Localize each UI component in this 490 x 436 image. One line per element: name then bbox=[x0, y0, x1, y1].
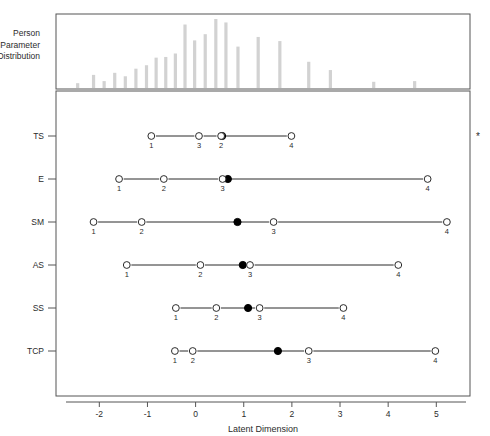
threshold-order-label: 1 bbox=[173, 356, 177, 365]
figure-canvas: PersonParameterDistributionTS1324*E1234S… bbox=[0, 0, 490, 436]
histogram-bar bbox=[372, 82, 375, 88]
x-axis-tick-label: 4 bbox=[386, 409, 391, 419]
threshold-marker bbox=[160, 176, 167, 183]
threshold-order-label: 2 bbox=[162, 184, 166, 193]
x-axis-tick-label: -1 bbox=[144, 409, 152, 419]
threshold-marker bbox=[443, 219, 450, 226]
x-axis-tick-label: 5 bbox=[434, 409, 439, 419]
threshold-order-label: 1 bbox=[149, 141, 153, 150]
threshold-marker bbox=[270, 219, 277, 226]
threshold-marker bbox=[305, 348, 312, 355]
threshold-order-label: 2 bbox=[219, 141, 223, 150]
histogram-bar bbox=[92, 75, 95, 88]
row-label-e: E bbox=[38, 174, 44, 184]
row-label-ts: TS bbox=[33, 131, 44, 141]
row-label-as: AS bbox=[33, 260, 45, 270]
histogram-bar bbox=[164, 57, 167, 88]
threshold-marker bbox=[196, 133, 203, 140]
threshold-order-label: 4 bbox=[445, 227, 449, 236]
histogram-bar bbox=[193, 40, 196, 88]
person-parameter-distribution-label: Person bbox=[13, 28, 40, 38]
threshold-order-label: 3 bbox=[220, 184, 224, 193]
histogram-bar bbox=[124, 76, 127, 88]
threshold-marker bbox=[123, 262, 130, 269]
threshold-marker bbox=[256, 305, 263, 312]
threshold-marker bbox=[218, 133, 225, 140]
histogram-bar bbox=[329, 70, 332, 88]
x-axis-tick-label: 2 bbox=[290, 409, 295, 419]
histogram-bar bbox=[236, 47, 239, 88]
threshold-marker bbox=[247, 262, 254, 269]
threshold-order-label: 4 bbox=[433, 356, 437, 365]
histogram-bar bbox=[257, 37, 260, 88]
item-location-dot-as bbox=[239, 261, 246, 268]
histogram-bar bbox=[307, 62, 310, 88]
histogram-bar bbox=[204, 34, 207, 88]
threshold-order-label: 2 bbox=[140, 227, 144, 236]
histogram-bar bbox=[183, 25, 186, 88]
threshold-order-label: 1 bbox=[125, 270, 129, 279]
histogram-bar bbox=[145, 65, 148, 88]
threshold-order-label: 3 bbox=[258, 313, 262, 322]
histogram-bar bbox=[113, 73, 116, 88]
threshold-order-label: 4 bbox=[396, 270, 400, 279]
main-panel-frame bbox=[56, 91, 470, 396]
x-axis-tick-label: -2 bbox=[96, 409, 104, 419]
person-parameter-distribution-label: Distribution bbox=[0, 51, 40, 61]
threshold-order-label: 3 bbox=[248, 270, 252, 279]
row-label-tcp: TCP bbox=[27, 346, 44, 356]
threshold-marker bbox=[424, 176, 431, 183]
person-parameter-distribution-label: Parameter bbox=[0, 40, 40, 50]
threshold-marker bbox=[90, 219, 97, 226]
threshold-order-label: 3 bbox=[197, 141, 201, 150]
histogram-bar bbox=[103, 81, 106, 88]
row-label-ss: SS bbox=[33, 303, 45, 313]
threshold-order-label: 1 bbox=[91, 227, 95, 236]
histogram-bar bbox=[134, 69, 137, 88]
histogram-bar bbox=[278, 41, 281, 88]
threshold-order-label: 4 bbox=[341, 313, 345, 322]
threshold-marker bbox=[213, 305, 220, 312]
threshold-marker bbox=[138, 219, 145, 226]
histogram-bar bbox=[413, 81, 416, 88]
histogram-panel-frame bbox=[56, 14, 470, 89]
threshold-marker bbox=[432, 348, 439, 355]
histogram-bar bbox=[214, 19, 217, 88]
item-location-dot-tcp bbox=[274, 347, 281, 354]
threshold-order-label: 1 bbox=[117, 184, 121, 193]
significance-marker: * bbox=[476, 131, 480, 142]
threshold-order-label: 3 bbox=[307, 356, 311, 365]
threshold-marker bbox=[189, 348, 196, 355]
x-axis-tick-label: 1 bbox=[241, 409, 246, 419]
histogram-bar bbox=[155, 58, 158, 88]
threshold-marker bbox=[116, 176, 123, 183]
threshold-marker bbox=[288, 133, 295, 140]
threshold-marker bbox=[197, 262, 204, 269]
threshold-order-label: 2 bbox=[191, 356, 195, 365]
histogram-bar bbox=[76, 83, 79, 88]
threshold-order-label: 2 bbox=[214, 313, 218, 322]
histogram-bar bbox=[224, 22, 227, 88]
row-label-sm: SM bbox=[31, 217, 44, 227]
threshold-order-label: 4 bbox=[289, 141, 293, 150]
item-location-dot-ss bbox=[244, 304, 251, 311]
threshold-marker bbox=[172, 348, 179, 355]
threshold-order-label: 2 bbox=[198, 270, 202, 279]
threshold-order-label: 3 bbox=[272, 227, 276, 236]
threshold-marker bbox=[340, 305, 347, 312]
x-axis-title: Latent Dimension bbox=[228, 424, 298, 434]
threshold-order-label: 1 bbox=[174, 313, 178, 322]
x-axis-tick-label: 3 bbox=[338, 409, 343, 419]
x-axis-tick-label: 0 bbox=[193, 409, 198, 419]
threshold-marker bbox=[148, 133, 155, 140]
histogram-bar bbox=[174, 54, 177, 89]
threshold-marker bbox=[395, 262, 402, 269]
threshold-marker bbox=[172, 305, 179, 312]
person-item-threshold-figure: PersonParameterDistributionTS1324*E1234S… bbox=[0, 0, 490, 436]
item-location-dot-sm bbox=[234, 218, 241, 225]
threshold-order-label: 4 bbox=[426, 184, 430, 193]
threshold-marker bbox=[219, 176, 226, 183]
